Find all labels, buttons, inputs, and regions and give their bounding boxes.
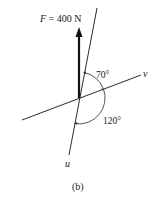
force-arrowhead-icon: [76, 27, 83, 37]
v-axis-label: v: [143, 68, 148, 79]
angle-label-120: 120°: [103, 116, 121, 126]
u-axis-line: [69, 8, 97, 155]
diagram-canvas: F = 400 N 70° 120° v u (b): [0, 0, 157, 202]
force-label: F = 400 N: [39, 13, 81, 24]
force-diagram: F = 400 N 70° 120° v u (b): [0, 0, 157, 202]
u-axis-label: u: [65, 158, 70, 169]
figure-caption: (b): [72, 181, 84, 193]
force-value: = 400 N: [46, 13, 81, 24]
v-axis-line: [22, 75, 141, 120]
angle-label-70: 70°: [96, 70, 110, 80]
